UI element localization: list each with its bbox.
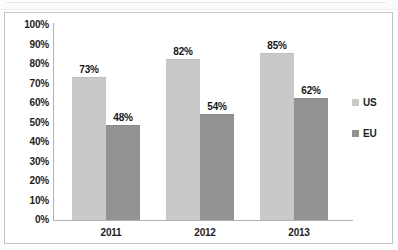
bar-group-2011: 73% 48% (72, 25, 150, 220)
y-axis-tick-label: 100% (11, 20, 49, 30)
legend: US EU (352, 95, 392, 157)
y-axis-tick-label: 80% (11, 59, 49, 69)
y-axis-tick-label: 20% (11, 176, 49, 186)
bar-us-2012[interactable]: 82% (166, 59, 200, 220)
bar-us-2013[interactable]: 85% (260, 53, 294, 220)
y-axis-tick-label: 0% (11, 215, 49, 225)
y-axis-tick-label: 70% (11, 79, 49, 89)
bar-us-2011[interactable]: 73% (72, 77, 106, 220)
bar-value-label: 48% (113, 112, 132, 123)
y-axis-tick-labels: 100% 90% 80% 70% 60% 50% 40% 30% 20% 10%… (11, 13, 49, 245)
y-axis-tick-label: 40% (11, 137, 49, 147)
chart-screenshot: 100% 90% 80% 70% 60% 50% 40% 30% 20% 10%… (0, 0, 398, 250)
legend-label-us: US (363, 97, 377, 108)
legend-item-eu[interactable]: EU (352, 126, 392, 140)
legend-swatch-us-icon (352, 99, 359, 106)
bar-group-2012: 82% 54% (166, 25, 244, 220)
scan-artifact (0, 0, 398, 10)
bar-value-label: 85% (267, 40, 286, 51)
legend-label-eu: EU (363, 128, 377, 139)
bar-eu-2012[interactable]: 54% (200, 114, 234, 220)
bar-value-label: 54% (207, 101, 226, 112)
y-axis-tick-label: 50% (11, 118, 49, 128)
bar-eu-2011[interactable]: 48% (106, 125, 140, 220)
x-axis-category-label-2012: 2012 (166, 227, 244, 238)
y-axis-tick-label: 30% (11, 157, 49, 167)
bar-value-label: 82% (173, 46, 192, 57)
legend-item-us[interactable]: US (352, 95, 392, 109)
x-axis-category-label-2013: 2013 (260, 227, 338, 238)
plot-area: 73% 48% 82% 54% 85% 62% (54, 25, 353, 220)
bar-eu-2013[interactable]: 62% (294, 98, 328, 220)
bar-value-label: 73% (79, 64, 98, 75)
x-axis-line (53, 220, 353, 221)
bar-group-2013: 85% 62% (260, 25, 338, 220)
y-axis-tick-label: 90% (11, 40, 49, 50)
y-axis-tick-label: 60% (11, 98, 49, 108)
y-axis-tick-label: 10% (11, 196, 49, 206)
legend-swatch-eu-icon (352, 130, 359, 137)
chart-frame: 100% 90% 80% 70% 60% 50% 40% 30% 20% 10%… (4, 12, 393, 244)
bar-value-label: 62% (301, 85, 320, 96)
x-axis-category-label-2011: 2011 (72, 227, 150, 238)
